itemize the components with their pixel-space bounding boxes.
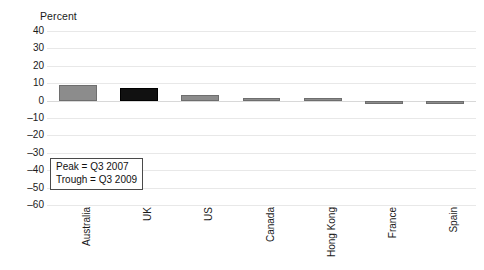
x-axis-tick-labels: AustraliaUKUSCanadaHong KongFranceSpain: [47, 207, 476, 269]
bar-australia: [59, 85, 97, 101]
x-tick-label: UK: [143, 207, 153, 221]
gridline: [47, 205, 476, 206]
gridline: [47, 135, 476, 136]
annotation-trough: Trough = Q3 2009: [56, 174, 137, 187]
gridline: [47, 101, 476, 102]
bar-hong-kong: [304, 98, 342, 101]
y-tick-label: –30: [10, 148, 44, 158]
y-axis-tick-labels: 403020100–10–20–30–40–50–60: [8, 31, 44, 205]
y-axis-title: Percent: [40, 10, 77, 22]
gridline: [47, 31, 476, 32]
gridline: [47, 48, 476, 49]
y-tick-label: –50: [10, 183, 44, 193]
gridline: [47, 118, 476, 119]
y-tick-label: –10: [10, 113, 44, 123]
y-tick-label: 20: [10, 61, 44, 71]
gridline: [47, 153, 476, 154]
bar-uk: [120, 88, 158, 101]
y-tick-label: 0: [10, 96, 44, 106]
y-tick-label: 10: [10, 78, 44, 88]
x-tick-label: Canada: [266, 207, 276, 242]
x-tick-label: US: [204, 207, 214, 221]
gridline: [47, 83, 476, 84]
y-tick-label: 40: [10, 26, 44, 36]
x-tick-label: Hong Kong: [327, 207, 337, 257]
x-tick-label: France: [388, 207, 398, 238]
x-tick-label: Spain: [449, 207, 459, 233]
bar-spain: [426, 101, 464, 104]
y-tick-label: –20: [10, 130, 44, 140]
y-tick-label: –40: [10, 165, 44, 175]
bar-us: [181, 95, 219, 100]
chart-figure: Percent 403020100–10–20–30–40–50–60 Aust…: [0, 0, 484, 270]
y-tick-label: –60: [10, 200, 44, 210]
bar-france: [365, 101, 403, 104]
x-tick-label: Australia: [82, 207, 92, 246]
gridline: [47, 66, 476, 67]
y-tick-label: 30: [10, 43, 44, 53]
bar-canada: [243, 98, 281, 101]
annotation-peak: Peak = Q3 2007: [56, 161, 137, 174]
annotation-box: Peak = Q3 2007 Trough = Q3 2009: [50, 158, 143, 190]
